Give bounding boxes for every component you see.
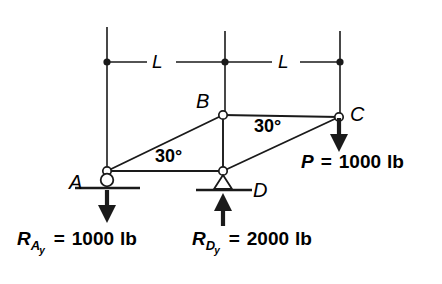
node-label-A: A <box>69 172 82 192</box>
force-unit-P: lb <box>387 151 404 172</box>
force-arrow-RDy <box>214 193 232 226</box>
dimension-label-left: L <box>152 52 163 71</box>
force-equals-RDy: = <box>229 228 240 249</box>
force-equals-P: = <box>321 151 332 172</box>
dimension-tick-dot-right <box>336 58 343 65</box>
dimension-label-right: L <box>278 52 289 71</box>
force-equals-RAy: = <box>54 228 65 249</box>
force-arrow-RDy-head <box>214 193 232 211</box>
node-label-C: C <box>350 104 364 124</box>
force-symbol-P: P <box>301 151 314 172</box>
pin-triangle-D <box>214 175 232 189</box>
support-D-pin <box>196 175 252 190</box>
force-arrow-RAy <box>98 190 116 223</box>
joint-B <box>219 111 227 119</box>
dimension-tick-dot-left <box>103 58 110 65</box>
force-arrow-P-head <box>330 134 348 152</box>
force-symbol-RAy: R <box>17 228 31 249</box>
node-label-D: D <box>253 180 267 200</box>
force-unit-RAy: lb <box>120 228 137 249</box>
force-unit-RDy: lb <box>295 228 312 249</box>
force-value-RDy: 2000 <box>247 228 289 249</box>
dimension-tick-dot-middle <box>221 58 228 65</box>
force-symbol-RDy: R <box>192 228 206 249</box>
joint-D <box>219 167 227 175</box>
truss-diagram: L L B C A D 30° 30° P=1000lb RAy=1000lb … <box>0 0 442 284</box>
angle-label-A: 30° <box>155 147 182 165</box>
force-arrow-RAy-head <box>98 205 116 223</box>
force-subsubscript-RAy: y <box>39 245 45 256</box>
force-label-RDy: RDy=2000lb <box>192 229 312 248</box>
support-A-roller <box>75 174 140 188</box>
force-value-P: 1000 <box>339 151 381 172</box>
force-label-RAy: RAy=1000lb <box>17 229 137 248</box>
roller-wheel-A <box>101 174 114 187</box>
node-label-B: B <box>196 91 209 111</box>
angle-label-C: 30° <box>254 117 281 135</box>
force-label-P: P=1000lb <box>301 152 404 171</box>
force-subsubscript-RDy: y <box>214 245 220 256</box>
force-value-RAy: 1000 <box>72 228 114 249</box>
force-arrow-P <box>330 118 348 152</box>
